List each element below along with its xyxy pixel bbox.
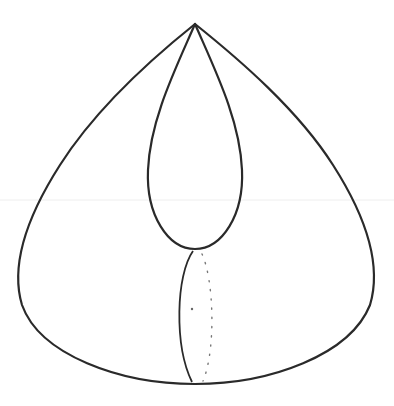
inner-teardrop-loop	[148, 24, 242, 249]
figure-canvas	[0, 0, 394, 406]
cross-section-back-arc-dotted	[202, 254, 212, 381]
cross-section-front-arc	[179, 251, 193, 382]
teardrop-surface-diagram	[0, 0, 394, 406]
outer-teardrop-curve	[18, 24, 374, 384]
point-marker	[191, 308, 193, 310]
